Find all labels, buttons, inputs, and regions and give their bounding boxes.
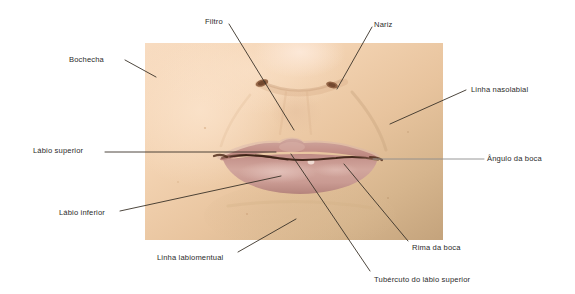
anatomy-figure: FiltroNarizBochechaLinha nasolabialLábio… <box>0 0 575 294</box>
label-tuberculo-do-labio-superior: Tubércuto do lábio superior <box>374 276 470 284</box>
label-labio-superior: Lábio superior <box>33 147 83 155</box>
label-angulo-da-boca: Ângulo da boca <box>487 155 542 163</box>
figure-canvas <box>0 0 575 294</box>
label-linha-nasolabial: Linha nasolabial <box>471 86 528 94</box>
photo-mouth-region <box>120 25 443 250</box>
label-filtro: Filtro <box>205 18 223 26</box>
label-nariz: Nariz <box>374 21 392 29</box>
label-linha-labiomentual: Linha labiomentual <box>157 254 223 262</box>
label-bochecha: Bochecha <box>69 56 104 64</box>
label-labio-inferior: Lábio inferior <box>59 209 105 217</box>
label-rima-da-boca: Rima da boca <box>412 244 461 252</box>
